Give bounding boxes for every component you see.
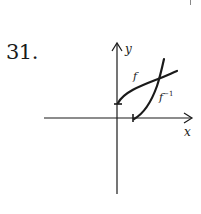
curve-f-inverse-label: f−1 (158, 90, 173, 104)
curve-f-label: f (132, 70, 139, 83)
x-axis-label: x (184, 125, 191, 139)
function-graph: y x f f−1 (0, 0, 201, 214)
x-axis (44, 113, 192, 123)
y-axis-label: y (124, 42, 132, 56)
curve-f (114, 71, 177, 104)
